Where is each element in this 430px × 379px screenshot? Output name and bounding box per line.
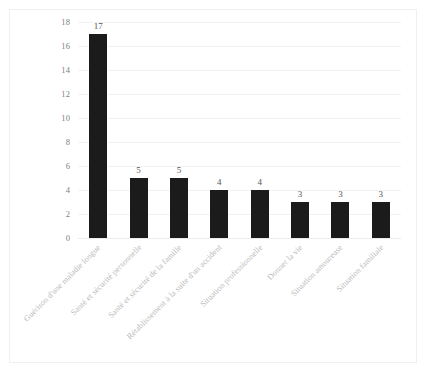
bar-slot: 3 [280,22,320,238]
page-bleed-text [0,369,430,379]
bar-value-label: 3 [338,190,343,199]
bar[interactable] [210,190,228,238]
bar[interactable] [170,178,188,238]
bar[interactable] [291,202,309,238]
bar-value-label: 4 [217,178,222,187]
y-axis-tick-label: 0 [44,234,70,243]
bar-value-label: 5 [177,166,182,175]
y-axis-tick-label: 14 [44,66,70,75]
plot-area: 175544333 [78,22,401,238]
bar-slot: 5 [159,22,199,238]
bar-slot: 17 [78,22,118,238]
bar-slot: 4 [199,22,239,238]
bar-value-label: 4 [257,178,262,187]
bar-slot: 5 [118,22,158,238]
y-axis-tick-label: 12 [44,90,70,99]
bar-slot: 3 [320,22,360,238]
y-axis-tick-label: 10 [44,114,70,123]
y-axis-tick-label: 18 [44,18,70,27]
y-axis-tick-label: 6 [44,162,70,171]
bar-slot: 3 [361,22,401,238]
bar-slot: 4 [240,22,280,238]
bar[interactable] [372,202,390,238]
bar-value-label: 5 [136,166,141,175]
figure-container: 175544333 024681012141618 Guérison d'une… [0,0,430,379]
bar[interactable] [130,178,148,238]
y-axis-tick-label: 16 [44,42,70,51]
bar-value-label: 3 [298,190,303,199]
bar[interactable] [331,202,349,238]
y-axis-tick-label: 2 [44,210,70,219]
bar-value-label: 17 [94,22,103,31]
y-axis-tick-label: 8 [44,138,70,147]
gridline [78,238,401,239]
bar[interactable] [89,34,107,238]
bar-value-label: 3 [379,190,384,199]
bar[interactable] [251,190,269,238]
y-axis-tick-label: 4 [44,186,70,195]
